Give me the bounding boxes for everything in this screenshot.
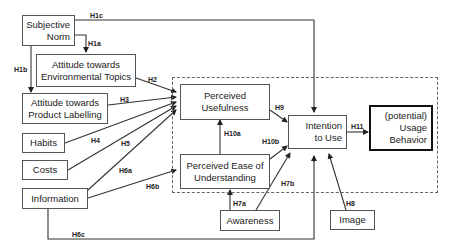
node-label: Habits: [23, 137, 64, 149]
node-label: Usefulness: [181, 102, 269, 114]
node-label: Behavior: [371, 134, 427, 146]
node-intention-to-use: Intention to Use: [288, 115, 347, 149]
label-h4: H4: [91, 137, 100, 145]
node-label: to Use: [289, 132, 342, 144]
label-h6c: H6c: [72, 231, 85, 239]
node-label: Usage: [371, 122, 427, 134]
node-label: (potential): [371, 110, 427, 122]
node-information: Information: [22, 188, 88, 209]
label-h1b: H1b: [14, 66, 27, 74]
label-h7a: H7a: [233, 200, 246, 208]
node-awareness: Awareness: [220, 210, 280, 231]
label-h6b: H6b: [146, 183, 159, 191]
label-h10b: H10b: [262, 138, 279, 146]
node-usage-behavior: (potential) Usage Behavior: [369, 105, 433, 151]
node-label: Intention: [289, 120, 342, 132]
label-h1a: H1a: [88, 40, 101, 48]
node-subjective-norm: Subjective Norm: [22, 15, 75, 46]
node-perceived-ease: Perceived Ease of Understanding: [180, 154, 270, 189]
label-h7b: H7b: [281, 180, 294, 188]
node-attitude-label: Attitude towards Product Labelling: [22, 93, 108, 124]
node-label: Perceived: [181, 90, 269, 102]
node-label: Awareness: [221, 215, 279, 227]
node-habits: Habits: [22, 133, 65, 153]
node-label: Image: [331, 214, 374, 226]
node-label: Subjective: [23, 19, 70, 31]
node-label: Attitude towards: [37, 59, 135, 71]
label-h8: H8: [346, 200, 355, 208]
node-label: Attitude towards: [23, 97, 107, 109]
node-attitude-env: Attitude towards Environmental Topics: [36, 54, 136, 87]
node-costs: Costs: [22, 160, 68, 180]
label-h10a: H10a: [224, 130, 241, 138]
node-label: Product Labelling: [23, 109, 107, 121]
label-h9: H9: [275, 104, 284, 112]
node-label: Costs: [23, 164, 67, 176]
node-label: Environmental Topics: [37, 71, 135, 83]
label-h11: H11: [351, 123, 363, 131]
node-label: Perceived Ease of: [181, 160, 269, 172]
label-h3: H3: [120, 96, 129, 104]
node-image: Image: [330, 210, 375, 230]
label-h6a: H6a: [119, 167, 132, 175]
label-h5: H5: [121, 140, 130, 148]
node-label: Understanding: [181, 172, 269, 184]
node-label: Norm: [23, 31, 70, 43]
label-h1c: H1c: [90, 12, 103, 20]
label-h2: H2: [148, 76, 157, 84]
node-perceived-usefulness: Perceived Usefulness: [180, 84, 270, 120]
node-label: Information: [23, 193, 87, 205]
